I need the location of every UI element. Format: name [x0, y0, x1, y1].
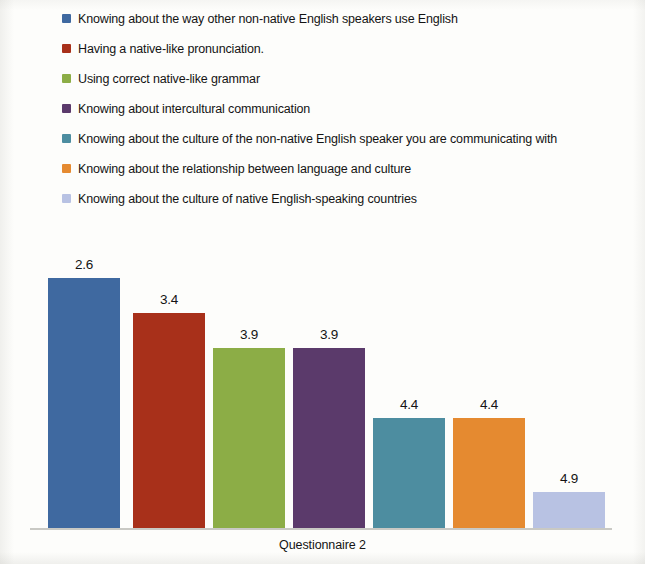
bar: [133, 313, 205, 528]
x-axis-label: Questionnaire 2: [0, 538, 645, 552]
bar: [48, 278, 120, 528]
bar-value-label: 3.9: [213, 327, 285, 342]
bar: [533, 492, 605, 528]
bar: [373, 418, 445, 528]
bar-value-label: 4.4: [373, 397, 445, 412]
bar-value-label: 3.9: [293, 327, 365, 342]
chart-figure: Knowing about the way other non-native E…: [0, 0, 645, 564]
bar: [453, 418, 525, 528]
x-axis-line: [30, 528, 612, 530]
bar: [213, 348, 285, 528]
bar-value-label: 3.4: [133, 292, 205, 307]
bar-value-label: 4.9: [533, 471, 605, 486]
bar-value-label: 4.4: [453, 397, 525, 412]
bar-value-label: 2.6: [48, 257, 120, 272]
plot-area: Questionnaire 2 2.63.43.93.94.44.44.9: [0, 0, 645, 564]
bar: [293, 348, 365, 528]
